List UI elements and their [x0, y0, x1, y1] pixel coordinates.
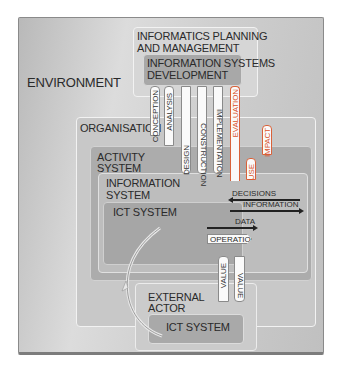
- data-arrow: [207, 227, 254, 229]
- phase-use: USE: [246, 158, 256, 180]
- curved-arrow-icon: [0, 0, 339, 381]
- value-up-strip: VALUE: [218, 256, 229, 302]
- phase-implementation: IMPLEMENTATION: [213, 86, 223, 174]
- phase-design: DESIGN: [181, 86, 191, 174]
- phase-analysis: ANALYSIS: [164, 86, 174, 146]
- information-arrowhead-icon: [299, 208, 304, 214]
- operation-arrow: OPERATION: [207, 234, 252, 244]
- phase-construction: CONSTRUCTION: [197, 86, 207, 174]
- value-down-strip: VALUE: [234, 256, 245, 302]
- decisions-arrowhead-icon: [228, 197, 233, 203]
- phase-evaluation: EVALUATION: [230, 86, 240, 181]
- phase-conception: CONCEPTION: [150, 86, 160, 136]
- information-label: INFORMATION: [243, 201, 298, 209]
- phase-impact: IMPACT: [262, 125, 272, 155]
- decisions-label: DECISIONS: [232, 190, 276, 198]
- information-arrow: [230, 210, 300, 212]
- data-arrowhead-icon: [253, 225, 258, 231]
